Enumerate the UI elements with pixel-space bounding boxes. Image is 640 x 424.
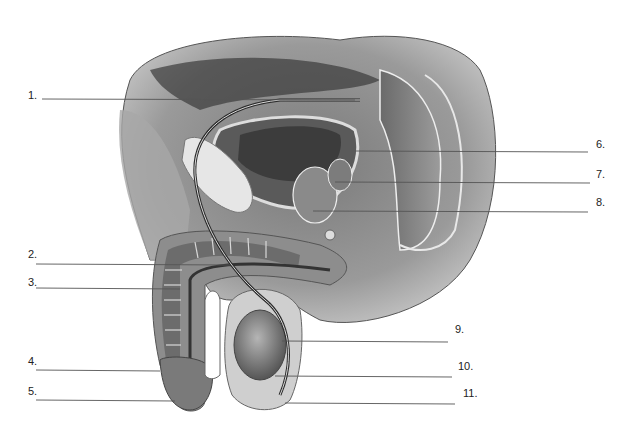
- leader-line-5: [36, 400, 175, 401]
- label-11: 11.: [463, 387, 477, 399]
- label-1: 1.: [28, 89, 37, 101]
- label-10: 10.: [458, 360, 473, 372]
- leader-line-10: [275, 376, 452, 377]
- label-3: 3.: [28, 276, 37, 288]
- label-6: 6.: [596, 138, 605, 150]
- label-4: 4.: [28, 355, 37, 367]
- leader-line-11: [285, 403, 455, 404]
- leader-line-4: [36, 370, 160, 371]
- leader-line-9: [282, 341, 448, 342]
- label-9: 9.: [455, 323, 464, 335]
- label-5: 5.: [28, 385, 37, 397]
- label-8: 8.: [596, 196, 605, 208]
- label-7: 7.: [596, 168, 605, 180]
- label-2: 2.: [28, 248, 37, 260]
- anatomical-illustration: [0, 0, 640, 424]
